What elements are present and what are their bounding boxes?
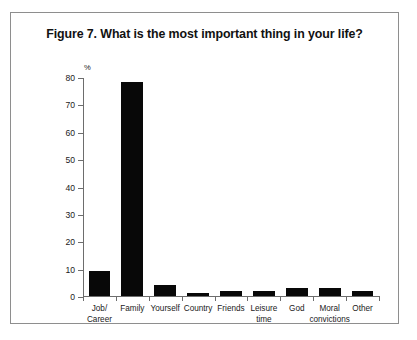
y-tick-mark — [78, 215, 84, 216]
bar-country — [187, 293, 209, 296]
plot-area: 01020304050607080 Job/ CareerFamilyYours… — [83, 78, 379, 297]
x-tick-mark — [280, 296, 281, 301]
y-tick-label: 40 — [65, 183, 75, 193]
y-tick-mark — [78, 188, 84, 189]
y-tick-label: 30 — [65, 210, 75, 220]
bar-job-career — [89, 271, 111, 296]
x-tick-mark — [215, 296, 216, 301]
y-tick-label: 80 — [65, 73, 75, 83]
bar-yourself — [154, 285, 176, 296]
x-label-other: Other — [335, 304, 391, 315]
y-tick-label: 10 — [65, 265, 75, 275]
x-axis-line — [83, 296, 379, 297]
y-axis-unit-label: % — [84, 63, 91, 72]
y-tick-label: 0 — [70, 292, 75, 302]
bar-family — [121, 82, 143, 296]
y-tick-label: 60 — [65, 128, 75, 138]
y-tick-mark — [78, 160, 84, 161]
x-tick-mark — [149, 296, 150, 301]
bar-other — [352, 291, 374, 296]
x-tick-mark — [247, 296, 248, 301]
bar-leisure-time — [253, 291, 275, 296]
y-tick-mark — [78, 133, 84, 134]
x-tick-mark — [116, 296, 117, 301]
x-tick-mark — [346, 296, 347, 301]
y-tick-label: 20 — [65, 237, 75, 247]
x-tick-mark — [313, 296, 314, 301]
y-tick-mark — [78, 105, 84, 106]
y-tick-label: 70 — [65, 100, 75, 110]
x-tick-mark — [379, 296, 380, 301]
bar-friends — [220, 291, 242, 296]
y-tick-mark — [78, 78, 84, 79]
figure-frame: Figure 7. What is the most important thi… — [10, 12, 399, 324]
y-tick-label: 50 — [65, 155, 75, 165]
x-tick-mark — [83, 296, 84, 301]
chart-title: Figure 7. What is the most important thi… — [11, 27, 398, 41]
y-tick-mark — [78, 270, 84, 271]
y-tick-mark — [78, 242, 84, 243]
x-tick-mark — [182, 296, 183, 301]
bar-moral-convictions — [319, 288, 341, 296]
bar-god — [286, 288, 308, 296]
